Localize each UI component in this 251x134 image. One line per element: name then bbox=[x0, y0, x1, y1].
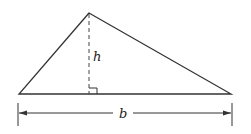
right-angle-marker bbox=[89, 88, 97, 94]
base-label: b bbox=[119, 106, 127, 121]
arrow-right-icon bbox=[223, 111, 231, 116]
triangle-diagram: h b bbox=[0, 0, 251, 134]
base-dimension: b bbox=[18, 103, 232, 126]
triangle bbox=[19, 13, 231, 94]
arrow-left-icon bbox=[19, 111, 27, 116]
height-label: h bbox=[93, 49, 101, 64]
